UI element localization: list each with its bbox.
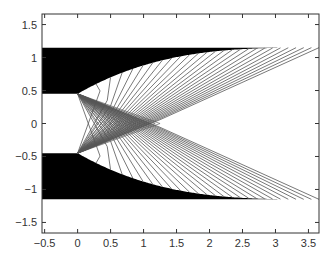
x-tick-label: 3.5 — [301, 237, 316, 249]
plot-area — [42, 14, 319, 233]
y-tick-label: 1.5 — [22, 19, 37, 31]
x-tick-label: 0 — [75, 237, 81, 249]
y-tick-label: 1 — [31, 52, 37, 64]
y-tick-label: −1 — [24, 183, 37, 195]
y-tick-label: 0.5 — [22, 85, 37, 97]
x-tick-label: 2 — [206, 237, 212, 249]
plot-background — [42, 14, 319, 233]
x-tick-label: −0.5 — [34, 237, 56, 249]
x-tick-label: 0.5 — [103, 237, 118, 249]
y-tick-label: −1.5 — [15, 216, 37, 228]
x-tick-label: 1 — [141, 237, 147, 249]
nozzle-chart: −0.500.511.522.533.5 1.510.50−0.5−1−1.5 — [0, 0, 336, 263]
x-tick-label: 3 — [272, 237, 278, 249]
x-tick-label: 1.5 — [169, 237, 184, 249]
x-tick-label: 2.5 — [235, 237, 250, 249]
y-tick-label: 0 — [31, 118, 37, 130]
y-tick-label: −0.5 — [15, 150, 37, 162]
